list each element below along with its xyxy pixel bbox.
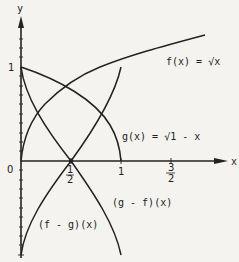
y-axis-label: y xyxy=(17,3,23,14)
g-curve xyxy=(21,67,121,161)
x-three-half-den: 2 xyxy=(168,173,174,184)
x-one-label: 1 xyxy=(118,166,124,177)
g-label: g(x) = √1 - x xyxy=(122,131,200,142)
function-graph: y x 0 1 1 2 1 3 2 f(x) = √x g(x) = √1 - … xyxy=(0,0,239,262)
f-label: f(x) = √x xyxy=(166,56,220,67)
y-one-label: 1 xyxy=(8,62,14,73)
intersection-point xyxy=(69,159,73,163)
y-axis-arrow-icon xyxy=(18,16,24,28)
origin-label: 0 xyxy=(7,164,13,175)
gf-label: (g - f)(x) xyxy=(112,197,172,208)
x-axis-label: x xyxy=(231,156,237,167)
f-curve xyxy=(21,35,205,161)
x-three-half-num: 3 xyxy=(168,162,174,173)
x-axis-arrow-icon xyxy=(214,158,228,164)
fg-label: (f - g)(x) xyxy=(38,219,98,230)
x-half-den: 2 xyxy=(67,174,73,185)
